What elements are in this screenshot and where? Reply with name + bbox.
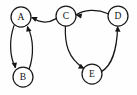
- edge-b-to-a: [26, 26, 32, 69]
- edge-d-to-c: [76, 10, 108, 18]
- edge-e-to-d-line: [101, 27, 117, 72]
- edge-a-to-b-arrowhead: [12, 63, 17, 69]
- node-e[interactable]: E: [82, 64, 102, 84]
- node-d-label: D: [115, 11, 122, 21]
- edge-c-to-e-line: [65, 26, 83, 68]
- edge-a-to-b: [11, 26, 17, 69]
- edge-c-to-a: [31, 17, 56, 22]
- edge-a-to-b-line: [11, 26, 16, 68]
- edge-c-to-e: [65, 26, 84, 69]
- node-a[interactable]: A: [11, 7, 31, 27]
- node-b[interactable]: B: [13, 67, 33, 87]
- node-b-label: B: [20, 72, 26, 82]
- directed-graph-figure: A B C D E: [0, 0, 137, 95]
- node-c[interactable]: C: [56, 6, 76, 26]
- node-a-label: A: [18, 12, 25, 22]
- node-c-label: C: [63, 11, 69, 21]
- edge-c-to-a-arrowhead: [31, 17, 37, 22]
- edge-b-to-a-line: [28, 27, 33, 69]
- graph-canvas: A B C D E: [0, 0, 137, 95]
- edge-e-to-d: [101, 26, 120, 72]
- node-e-label: E: [89, 69, 95, 79]
- node-d[interactable]: D: [108, 6, 128, 26]
- edge-e-to-d-arrowhead: [115, 26, 121, 32]
